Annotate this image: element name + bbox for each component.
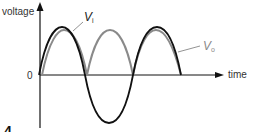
- figure-number: 4: [4, 123, 12, 132]
- x-axis-arrow-icon: [215, 72, 224, 78]
- vo-leader-line: [178, 46, 200, 52]
- y-axis-label: voltage: [2, 6, 35, 17]
- rectifier-waveform-diagram: voltage time 0 Vi Vo 4: [0, 0, 254, 132]
- origin-label: 0: [27, 70, 33, 81]
- vi-label: Vi: [84, 10, 94, 24]
- vi-leader-line: [73, 22, 83, 31]
- y-axis-arrow-icon: [37, 2, 44, 11]
- output-waveform-vo: [42, 30, 181, 75]
- vo-label: Vo: [203, 39, 215, 53]
- x-axis-label: time: [228, 69, 247, 80]
